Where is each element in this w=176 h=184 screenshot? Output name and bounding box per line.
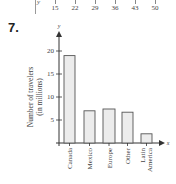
y-tick-label: 5 [51, 116, 55, 124]
y-tick-label: 15 [47, 70, 55, 78]
bar-latin-america [141, 134, 152, 143]
x-category-labels: Canada Mexico Europe Other Latin America [66, 147, 154, 172]
y-tick-label: 10 [47, 93, 55, 101]
y-axis-letter: y [57, 23, 61, 29]
bar-chart: y x 5 10 15 20 Number of travelers (in m… [0, 0, 176, 184]
bar-mexico [84, 111, 95, 143]
bars [64, 56, 152, 143]
y-axis-label: Number of travelers (in millions) [26, 67, 44, 127]
x-axis-letter: x [166, 140, 170, 146]
y-tick-label: 20 [47, 47, 55, 55]
y-axis-label-line2: (in millions) [35, 78, 44, 116]
category-label-other: Other [124, 147, 132, 164]
bar-canada [64, 56, 75, 143]
category-label-canada: Canada [66, 147, 74, 169]
y-ticks: 5 10 15 20 [47, 47, 62, 124]
bar-other [122, 112, 133, 143]
category-label-latin-line2: America [146, 147, 154, 172]
category-label-europe: Europe [106, 148, 114, 168]
y-axis-label-line1: Number of travelers [26, 67, 35, 127]
category-label-mexico: Mexico [86, 148, 94, 170]
bar-europe [103, 109, 115, 143]
